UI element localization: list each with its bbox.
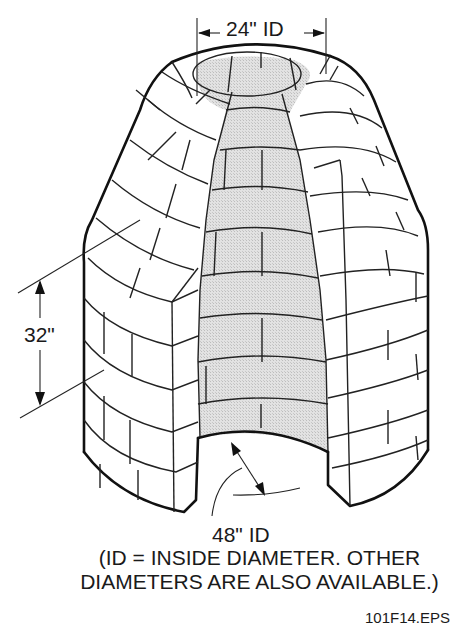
note-line-1: (ID = INSIDE DIAMETER. OTHER bbox=[30, 546, 459, 570]
base-id-label: 48" ID bbox=[212, 523, 270, 547]
note-line-2: DIAMETERS ARE ALSO AVAILABLE.) bbox=[30, 570, 459, 594]
interior-wall-cutaway bbox=[193, 52, 328, 452]
height-dimension bbox=[18, 220, 140, 418]
figure-id: 101F14.EPS bbox=[365, 609, 450, 626]
height-label: 32" bbox=[24, 323, 55, 347]
base-id-dimension bbox=[212, 442, 300, 516]
top-id-label: 24" ID bbox=[226, 17, 284, 41]
